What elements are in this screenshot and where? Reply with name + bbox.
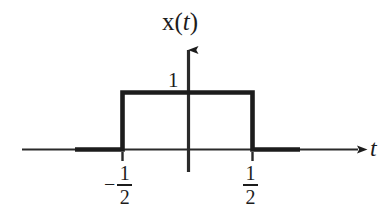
y-axis-label-open-paren: ( — [175, 8, 183, 35]
y-axis-label-variable: t — [183, 8, 190, 35]
fraction-numerator: 1 — [244, 163, 258, 184]
amplitude-label: 1 — [168, 70, 179, 91]
tick-label-neg-half-sign: − — [104, 174, 115, 194]
fraction-denominator: 2 — [244, 186, 258, 207]
figure-canvas: x(t) t 1 − 1 2 1 2 — [0, 0, 390, 207]
fraction-numerator: 1 — [118, 163, 132, 184]
y-axis-label: x(t) — [162, 9, 198, 34]
y-axis-label-function: x — [162, 8, 175, 35]
fraction-pos-half: 1 2 — [243, 163, 258, 207]
fraction-neg-half: 1 2 — [117, 163, 132, 207]
tick-label-pos-half: 1 2 — [243, 163, 258, 207]
x-axis-label: t — [370, 136, 377, 160]
fraction-denominator: 2 — [118, 186, 132, 207]
y-axis-label-close-paren: ) — [190, 8, 198, 35]
tick-label-neg-half: − 1 2 — [104, 163, 132, 207]
